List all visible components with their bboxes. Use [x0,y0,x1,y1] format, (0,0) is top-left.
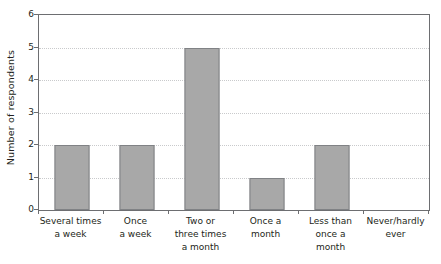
x-axis-category-label-line: Several times [38,215,103,228]
x-axis-category-label-line: Once a [233,215,298,228]
x-axis-category-label-line: Once [103,215,168,228]
x-axis-category-label-line: a week [103,228,168,241]
y-axis-tick-label: 2 [20,140,34,149]
bar-slot [299,15,364,210]
x-axis-category-label-line: three times [168,228,233,241]
x-axis-category-label-line: once a [298,228,363,241]
y-axis-tick-labels: 0123456 [18,0,34,264]
x-axis-category-label-line: a month [168,241,233,254]
x-axis-category-label: Never/hardlyever [363,215,428,241]
x-axis-tick-mark [363,210,364,214]
x-axis-tick-mark [103,210,104,214]
y-axis-tick-label: 5 [20,42,34,51]
x-axis-tick-mark [428,210,429,214]
x-axis-category-label-line: Two or [168,215,233,228]
x-axis-tick-mark [38,210,39,214]
bar-slot [39,15,104,210]
bar-slot [169,15,234,210]
bar[interactable] [314,145,349,210]
x-axis-category-label: Several timesa week [38,215,103,241]
bar-slot [234,15,299,210]
y-axis-tick-label: 4 [20,75,34,84]
x-axis-tick-mark [168,210,169,214]
bar[interactable] [184,48,219,211]
x-axis-tick-mark [298,210,299,214]
bar[interactable] [119,145,154,210]
y-axis-tick-label: 3 [20,107,34,116]
plot-inner [39,15,429,210]
y-axis-tick-label: 0 [20,205,34,214]
x-axis-category-label: Once amonth [233,215,298,241]
bar[interactable] [249,178,284,211]
bar-chart: Number of respondents 0123456 Several ti… [0,0,441,264]
x-axis-category-label-line: a week [38,228,103,241]
x-axis-category-label-line: month [233,228,298,241]
x-axis-tick-mark [233,210,234,214]
y-axis-tick-label: 6 [20,10,34,19]
x-axis-category-label-line: ever [363,228,428,241]
x-axis-category-label-line: month [298,241,363,254]
bar[interactable] [54,145,89,210]
x-axis-category-label: Oncea week [103,215,168,241]
bar-slot [364,15,429,210]
plot-area [38,14,430,211]
x-axis-category-label: Less thanonce amonth [298,215,363,254]
bar-slot [104,15,169,210]
y-axis-tick-label: 1 [20,172,34,181]
x-axis-category-label-line: Less than [298,215,363,228]
x-axis-category-labels: Several timesa weekOncea weekTwo orthree… [38,215,428,263]
x-axis-category-label-line: Never/hardly [363,215,428,228]
x-axis-category-label: Two orthree timesa month [168,215,233,254]
y-axis-title-text: Number of respondents [6,50,17,165]
